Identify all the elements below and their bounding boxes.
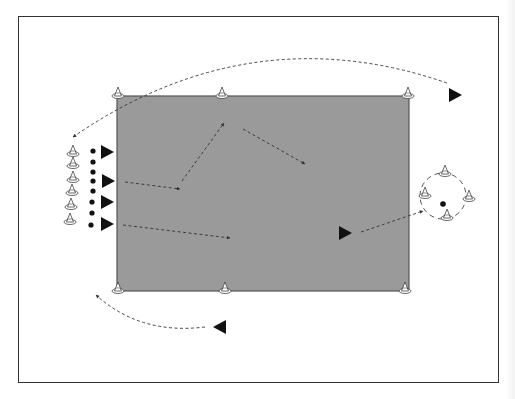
field-cone (112, 87, 124, 99)
drill-diagram (0, 0, 515, 399)
ball-icon (89, 199, 94, 204)
goal-cone (419, 187, 431, 199)
queue-cone (67, 171, 79, 183)
playing-field (117, 96, 409, 291)
page-edge-shadow (505, 0, 515, 399)
cone-icon (69, 184, 76, 193)
cone-icon (444, 209, 451, 218)
cone-icon (442, 165, 449, 174)
cone-icon (405, 87, 412, 96)
cone-icon (115, 87, 122, 96)
goal-cone (441, 209, 453, 221)
queue-cone (66, 184, 78, 196)
field-cone (216, 87, 228, 99)
goal-cone (463, 190, 475, 202)
cone-icon (70, 145, 77, 154)
cone-icon (219, 87, 226, 96)
goal-cone (439, 165, 451, 177)
queue-cone (67, 157, 79, 169)
player-triangle-icon (101, 195, 114, 209)
ball-icon (440, 201, 446, 207)
player-triangle-icon (101, 217, 114, 231)
ball-icon (90, 188, 95, 193)
cone-icon (70, 157, 77, 166)
queue-cone (65, 198, 77, 210)
cone-icon (422, 187, 429, 196)
cone-icon (70, 171, 77, 180)
bottom-return-run-arrow (96, 295, 205, 328)
ball-icon (90, 148, 95, 153)
player-triangle-icon (101, 145, 114, 159)
player-triangle-icon (102, 174, 115, 188)
cone-icon (466, 190, 473, 199)
ball-icon (90, 169, 95, 174)
ball-icon (90, 159, 95, 164)
queue-cone (64, 213, 76, 225)
queue-cone (67, 145, 79, 157)
cone-icon (68, 198, 75, 207)
ball-icon (88, 222, 93, 227)
player-triangle-icon (213, 320, 226, 334)
player-triangle-icon (449, 88, 462, 102)
ball-icon (89, 210, 94, 215)
field-cone (402, 87, 414, 99)
cone-icon (67, 213, 74, 222)
ball-icon (90, 178, 95, 183)
